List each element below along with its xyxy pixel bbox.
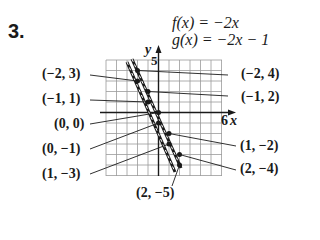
label-point-0-neg1: (0, −1) [42, 141, 80, 157]
label-point-2-neg5: (2, −5) [136, 185, 174, 201]
y-tick-5: 5 [151, 53, 158, 69]
x-axis-label: x [230, 113, 237, 129]
label-point-1-neg2: (1, −2) [240, 138, 278, 154]
label-point-neg2-3: (−2, 3) [42, 66, 80, 82]
label-point-neg2-4: (−2, 4) [241, 66, 279, 82]
label-point-0-0: (0, 0) [54, 116, 84, 132]
label-point-neg1-2: (−1, 2) [241, 89, 279, 105]
x-tick-6: 6 [221, 113, 228, 129]
axes [100, 50, 232, 176]
y-axis-arrow-icon [156, 45, 162, 53]
label-point-2-neg4: (2, −4) [240, 161, 278, 177]
label-point-1-neg3: (1, −3) [42, 166, 80, 182]
label-point-neg1-1: (−1, 1) [42, 91, 80, 107]
